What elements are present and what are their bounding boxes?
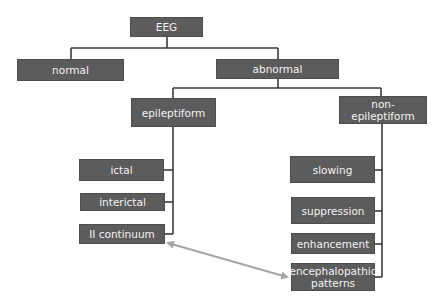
node-non-epileptiform-label: non-epileptiform [340, 98, 426, 122]
node-epileptiform-label: epileptiform [142, 107, 206, 119]
node-encephalopathic-label-line1: encephalopathic [290, 265, 377, 277]
node-abnormal-label: abnormal [253, 63, 303, 75]
node-ictal-label: ictal [110, 164, 132, 176]
node-epileptiform: epileptiform [131, 98, 216, 127]
node-suppression-label: suppression [302, 205, 365, 217]
node-eeg-label: EEG [156, 21, 177, 33]
node-non-epileptiform: non-epileptiform [339, 96, 427, 124]
bidirectional-arrow [168, 243, 287, 277]
node-suppression: suppression [291, 197, 375, 224]
node-abnormal: abnormal [216, 59, 339, 79]
node-encephalopathic-label-line2: patterns [311, 277, 355, 289]
node-enhancement-label: enhancement [297, 238, 370, 250]
node-interictal: interictal [80, 193, 165, 211]
node-eeg: EEG [130, 17, 203, 37]
node-ii-continuum-label: II continuum [89, 228, 155, 240]
node-ii-continuum: II continuum [79, 224, 165, 244]
node-normal: normal [17, 59, 124, 81]
node-enhancement: enhancement [291, 233, 375, 254]
node-encephalopathic-patterns: encephalopathic patterns [291, 263, 375, 291]
node-ictal: ictal [79, 159, 164, 181]
node-normal-label: normal [52, 64, 89, 76]
connector-lines [0, 0, 439, 308]
node-slowing: slowing [290, 156, 375, 183]
node-slowing-label: slowing [313, 164, 353, 176]
node-interictal-label: interictal [99, 196, 146, 208]
eeg-classification-diagram: EEG normal abnormal epileptiform non-epi… [0, 0, 439, 308]
